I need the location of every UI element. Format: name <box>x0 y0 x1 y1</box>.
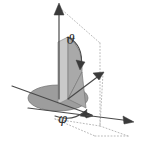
y-axis-arrowhead <box>123 116 134 124</box>
figure-canvas <box>0 0 144 142</box>
z-axis-arrowhead <box>54 3 64 15</box>
spherical-coordinate-figure: ϑ φ <box>0 0 144 142</box>
guide-radial-projection <box>100 73 103 126</box>
azimuth-angle-arc-arrowhead <box>80 109 87 117</box>
guide-bottom-right-diagonal <box>100 126 128 136</box>
polar-angle-label: ϑ <box>66 33 75 46</box>
azimuth-angle-label: φ <box>58 112 67 125</box>
